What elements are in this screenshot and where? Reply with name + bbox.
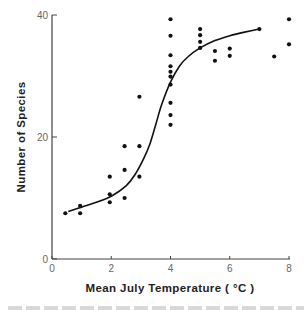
x-tick-label: 8: [286, 263, 292, 274]
data-point: [168, 101, 172, 105]
data-point: [78, 211, 82, 215]
data-point: [168, 82, 172, 86]
data-point: [108, 175, 112, 179]
data-point: [122, 196, 126, 200]
scatter-chart: 0246802040 Mean July Temperature ( °C ) …: [0, 0, 307, 310]
data-point: [168, 70, 172, 74]
data-point: [122, 168, 126, 172]
data-point: [137, 144, 141, 148]
data-point: [168, 123, 172, 127]
data-point: [168, 64, 172, 68]
data-point: [78, 204, 82, 208]
data-point: [198, 40, 202, 44]
x-tick-label: 2: [108, 263, 114, 274]
axis-ticks: 0246802040: [37, 10, 292, 275]
data-point: [213, 59, 217, 63]
data-point: [108, 192, 112, 196]
data-point: [287, 17, 291, 21]
x-axis-title: Mean July Temperature ( °C ): [86, 282, 255, 294]
data-point: [168, 34, 172, 38]
y-tick-label: 40: [37, 10, 49, 21]
data-point: [168, 17, 172, 21]
y-axis-title: Number of Species: [15, 82, 27, 193]
data-point: [168, 113, 172, 117]
y-tick-label: 0: [42, 254, 48, 265]
data-point: [287, 42, 291, 46]
data-point: [228, 54, 232, 58]
data-point: [272, 54, 276, 58]
data-point: [137, 95, 141, 99]
data-point: [228, 46, 232, 50]
data-point: [122, 144, 126, 148]
data-point: [63, 211, 67, 215]
figure-caption-truncated: [8, 306, 304, 310]
x-tick-label: 6: [227, 263, 233, 274]
data-point: [213, 49, 217, 53]
data-point: [198, 46, 202, 50]
data-point: [168, 53, 172, 57]
axes: [52, 15, 290, 259]
x-tick-label: 4: [168, 263, 174, 274]
data-point: [168, 75, 172, 79]
data-point: [198, 27, 202, 31]
data-point: [198, 33, 202, 37]
data-point: [257, 27, 261, 31]
data-point: [137, 175, 141, 179]
y-tick-label: 20: [37, 132, 49, 143]
x-tick-label: 0: [49, 263, 55, 274]
data-point: [108, 200, 112, 204]
data-points: [63, 17, 291, 215]
